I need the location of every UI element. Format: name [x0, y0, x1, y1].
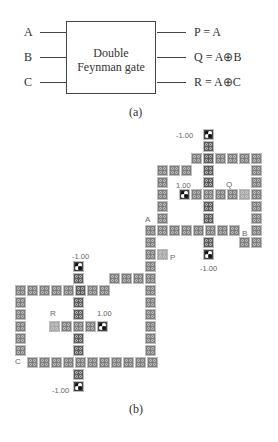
- quantum-dot-icon: [75, 311, 78, 314]
- quantum-dot-icon: [21, 347, 24, 350]
- quantum-dot-icon: [233, 159, 236, 162]
- qca-cell: [229, 225, 240, 236]
- quantum-dot-icon: [193, 195, 196, 198]
- quantum-dot-icon: [253, 231, 256, 234]
- quantum-dot-icon: [159, 231, 162, 234]
- qca-cell: [27, 357, 38, 368]
- qca-cell: [39, 357, 50, 368]
- qca-cell: [205, 225, 216, 236]
- quantum-dot-icon: [51, 327, 54, 330]
- qca-cell: [157, 165, 168, 176]
- quantum-dot-icon: [21, 327, 24, 330]
- quantum-dot-icon: [175, 231, 178, 234]
- qca-cell: [157, 177, 168, 188]
- quantum-dot-icon: [79, 347, 82, 350]
- quantum-dot-icon: [211, 231, 214, 234]
- quantum-dot-icon: [33, 291, 36, 294]
- qca-cell: [227, 189, 238, 200]
- quantum-dot-icon: [209, 143, 212, 146]
- quantum-dot-icon: [187, 171, 190, 174]
- qca-cell: [203, 213, 214, 224]
- label-top-fixed: -1.00: [176, 131, 193, 140]
- quantum-dot-icon: [79, 303, 82, 306]
- quantum-dot-icon: [221, 155, 224, 158]
- quantum-dot-icon: [91, 327, 94, 330]
- quantum-dot-icon: [75, 323, 78, 326]
- quantum-dot-icon: [69, 287, 72, 290]
- quantum-dot-icon: [209, 207, 212, 210]
- quantum-dot-icon: [171, 171, 174, 174]
- quantum-dot-icon: [151, 339, 154, 342]
- qca-fixed-cell: [179, 189, 190, 200]
- qca-cell: [157, 189, 168, 200]
- quantum-dot-icon: [197, 191, 200, 194]
- quantum-dot-icon: [78, 386, 82, 390]
- quantum-dot-icon: [209, 239, 212, 242]
- quantum-dot-icon: [217, 195, 220, 198]
- quantum-dot-icon: [253, 207, 256, 210]
- label-left-top-fixed: -1.00: [72, 252, 89, 261]
- quantum-dot-icon: [89, 287, 92, 290]
- label-mid-fixed: -1.00: [200, 264, 217, 273]
- quantum-dot-icon: [87, 327, 90, 330]
- quantum-dot-icon: [159, 255, 162, 258]
- quantum-dot-icon: [159, 191, 162, 194]
- quantum-dot-icon: [217, 159, 220, 162]
- quantum-dot-icon: [51, 323, 54, 326]
- quantum-dot-icon: [163, 167, 166, 170]
- quantum-dot-icon: [93, 287, 96, 290]
- qca-cell: [145, 297, 156, 308]
- qca-cell: [145, 225, 156, 236]
- quantum-dot-icon: [147, 311, 150, 314]
- quantum-dot-icon: [147, 227, 150, 230]
- quantum-dot-icon: [163, 251, 166, 254]
- qca-cell: [191, 153, 202, 164]
- quantum-dot-icon: [75, 279, 78, 282]
- quantum-dot-icon: [159, 251, 162, 254]
- quantum-dot-icon: [17, 303, 20, 306]
- qca-cell: [15, 345, 26, 356]
- quantum-dot-icon: [159, 219, 162, 222]
- quantum-dot-icon: [135, 279, 138, 282]
- label-bottom-fixed: -1.00: [52, 386, 69, 395]
- quantum-dot-icon: [187, 227, 190, 230]
- quantum-dot-icon: [171, 167, 174, 170]
- quantum-dot-icon: [147, 291, 150, 294]
- quantum-dot-icon: [151, 263, 154, 266]
- quantum-dot-icon: [101, 363, 104, 366]
- quantum-dot-icon: [205, 167, 208, 170]
- quantum-dot-icon: [41, 363, 44, 366]
- quantum-dot-icon: [117, 363, 120, 366]
- quantum-dot-icon: [115, 275, 118, 278]
- qca-cell: [75, 357, 86, 368]
- quantum-dot-icon: [55, 327, 58, 330]
- quantum-dot-icon: [55, 323, 58, 326]
- quantum-dot-icon: [147, 327, 150, 330]
- quantum-dot-icon: [219, 227, 222, 230]
- quantum-dot-icon: [257, 203, 260, 206]
- qca-fixed-cell: [73, 381, 84, 392]
- quantum-dot-icon: [183, 171, 186, 174]
- quantum-dot-icon: [253, 155, 256, 158]
- quantum-dot-icon: [79, 311, 82, 314]
- quantum-dot-icon: [219, 231, 222, 234]
- qca-cell: [147, 357, 158, 368]
- quantum-dot-icon: [159, 167, 162, 170]
- quantum-dot-icon: [163, 231, 166, 234]
- quantum-dot-icon: [17, 335, 20, 338]
- quantum-dot-icon: [151, 251, 154, 254]
- quantum-dot-icon: [151, 279, 154, 282]
- quantum-dot-icon: [75, 375, 78, 378]
- quantum-dot-icon: [159, 195, 162, 198]
- qca-cell: [145, 249, 156, 260]
- quantum-dot-icon: [29, 363, 32, 366]
- qca-cell: [215, 189, 226, 200]
- quantum-dot-icon: [171, 227, 174, 230]
- quantum-dot-icon: [199, 231, 202, 234]
- quantum-dot-icon: [57, 363, 60, 366]
- qca-cell: [203, 141, 214, 152]
- quantum-dot-icon: [235, 231, 238, 234]
- quantum-dot-icon: [193, 159, 196, 162]
- quantum-dot-icon: [151, 303, 154, 306]
- quantum-dot-icon: [147, 267, 150, 270]
